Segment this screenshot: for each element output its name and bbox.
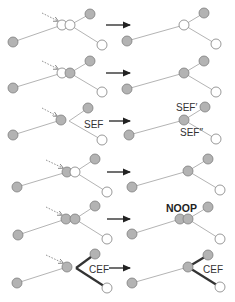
tree-edge <box>70 25 102 45</box>
white-node <box>215 282 225 292</box>
tree-edge <box>18 219 66 235</box>
transformation-row2 <box>8 56 221 97</box>
gray-node <box>203 202 213 212</box>
gray-node <box>179 115 189 125</box>
before-tree <box>8 9 107 50</box>
white-node <box>102 187 112 197</box>
white-node <box>215 234 225 244</box>
tree-edge <box>184 25 216 44</box>
operation-label: SEF <box>84 119 103 130</box>
gray-node <box>127 182 137 192</box>
tree-edge <box>13 120 61 135</box>
before-tree: SEF <box>8 103 107 145</box>
before-tree: CEF <box>12 249 112 293</box>
gray-node <box>8 83 18 93</box>
gray-node <box>203 154 213 164</box>
tree-edge <box>127 73 184 89</box>
gray-node <box>203 250 213 260</box>
tree-edge <box>75 172 107 192</box>
dashed-pointer-arrow-icon <box>46 255 63 263</box>
gray-node <box>124 130 134 140</box>
tree-edge <box>13 25 62 42</box>
gray-node <box>183 262 193 272</box>
tree-edge <box>13 73 62 88</box>
gray-node <box>56 115 66 125</box>
tree-edge <box>75 219 107 239</box>
gray-node <box>65 68 75 78</box>
transformation-row6: CEFCEF <box>12 249 225 293</box>
gray-node <box>90 201 100 211</box>
gray-node <box>12 278 22 288</box>
white-node <box>102 234 112 244</box>
tree-edge <box>127 25 184 41</box>
white-node <box>211 134 221 144</box>
white-node <box>65 20 75 30</box>
white-node <box>97 87 107 97</box>
tree-edge <box>70 73 102 92</box>
gray-node <box>199 8 209 18</box>
gray-node <box>200 102 210 112</box>
dashed-pointer-arrow-icon <box>42 61 58 69</box>
gray-node <box>122 36 132 46</box>
transformation-row5: NOOP <box>13 201 225 244</box>
white-node <box>70 167 80 177</box>
gray-node <box>85 9 95 19</box>
tree-edge <box>132 219 180 234</box>
white-node <box>211 39 221 49</box>
operation-label: SEF″ <box>180 127 203 138</box>
gray-node <box>90 154 100 164</box>
gray-node <box>12 182 22 192</box>
tree-edge <box>188 171 220 190</box>
after-tree <box>122 8 221 49</box>
tree-edge <box>17 267 67 283</box>
white-node <box>102 283 112 293</box>
diagram-rows: SEFSEF′SEF″NOOPCEFCEF <box>8 8 225 293</box>
gray-node <box>183 166 193 176</box>
gray-node <box>90 249 100 259</box>
operation-label: SEF′ <box>176 102 197 113</box>
gray-node <box>127 229 137 239</box>
gray-node <box>122 84 132 94</box>
transformation-row4 <box>12 154 225 197</box>
after-tree <box>127 154 225 195</box>
gray-node <box>61 214 71 224</box>
gray-node <box>8 37 18 47</box>
dashed-pointer-arrow-icon <box>46 160 63 168</box>
operation-label: CEF <box>203 264 223 275</box>
tree-edge <box>184 73 216 92</box>
gray-node <box>70 214 80 224</box>
gray-node <box>83 103 93 113</box>
before-tree <box>12 154 112 197</box>
tree-edge <box>132 171 188 187</box>
gray-node <box>199 56 209 66</box>
transformation-row1 <box>8 8 221 50</box>
dashed-pointer-arrow-icon <box>46 207 62 215</box>
tree-edge <box>188 219 220 239</box>
gray-node <box>8 130 18 140</box>
gray-node <box>179 68 189 78</box>
after-tree <box>122 56 221 97</box>
operation-label: NOOP <box>166 202 197 214</box>
gray-node <box>127 278 137 288</box>
after-tree: SEF′SEF″ <box>124 102 221 144</box>
white-node <box>97 135 107 145</box>
tree-edge <box>17 172 67 187</box>
gray-node <box>13 230 23 240</box>
white-node <box>215 185 225 195</box>
white-node <box>97 40 107 50</box>
tree-edge <box>129 120 184 135</box>
dashed-pointer-arrow-icon <box>42 108 57 116</box>
tree-edge <box>132 267 188 283</box>
operation-label: CEF <box>89 264 109 275</box>
before-tree <box>8 56 107 97</box>
gray-node <box>62 262 72 272</box>
white-node <box>179 20 189 30</box>
dashed-pointer-arrow-icon <box>42 13 58 21</box>
white-node <box>211 87 221 97</box>
after-tree: NOOP <box>127 202 225 244</box>
after-tree: CEF <box>127 250 225 292</box>
gray-node <box>85 56 95 66</box>
before-tree <box>13 201 112 244</box>
transformation-row3: SEFSEF′SEF″ <box>8 102 221 145</box>
tree-transformation-diagram: SEFSEF′SEF″NOOPCEFCEF <box>0 0 235 302</box>
